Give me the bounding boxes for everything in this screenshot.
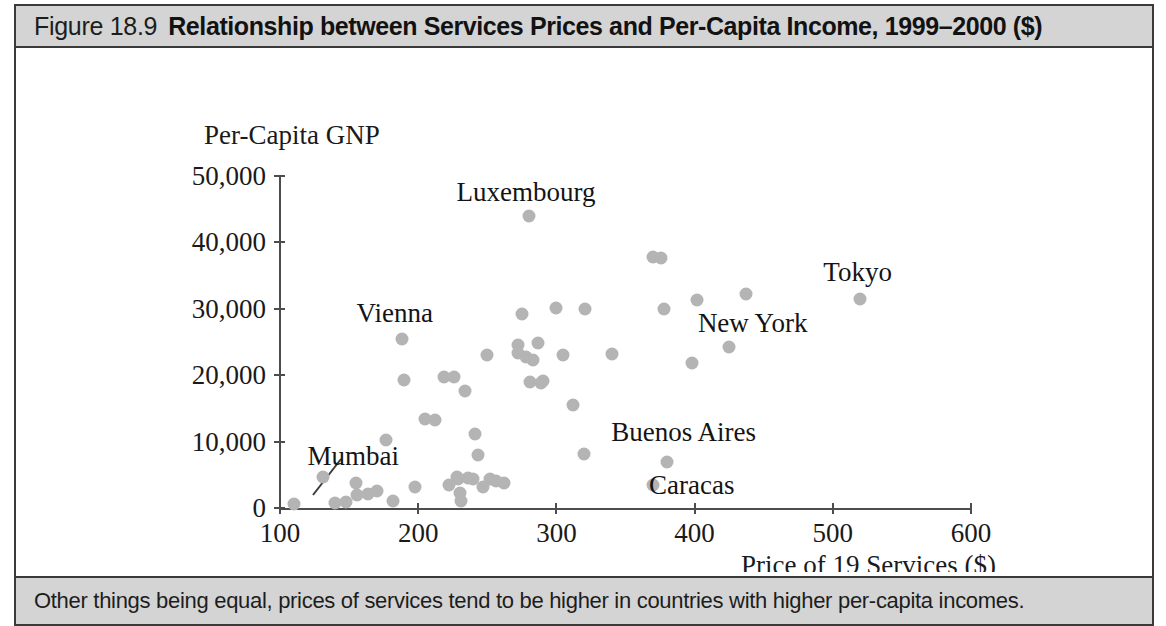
figure-container: Figure 18.9 Relationship between Service… [0, 0, 1166, 626]
data-point [854, 292, 867, 305]
data-point [660, 455, 673, 468]
data-point [471, 448, 484, 461]
figure-title: Relationship between Services Prices and… [168, 12, 1042, 41]
data-point [557, 348, 570, 361]
x-tick-label-400: 400 [674, 518, 715, 549]
y-axis-line [279, 176, 281, 510]
figure-caption: Other things being equal, prices of serv… [34, 588, 1024, 614]
data-point [459, 385, 472, 398]
data-point [536, 375, 549, 388]
data-point [497, 476, 510, 489]
data-point [723, 341, 736, 354]
point-label-buenos-aires: Buenos Aires [611, 417, 756, 448]
y-tick-label-20000: 20,000 [192, 360, 266, 391]
x-axis-line [279, 508, 972, 510]
data-point [566, 399, 579, 412]
data-point [658, 302, 671, 315]
x-tick-label-300: 300 [536, 518, 577, 549]
point-label-tokyo: Tokyo [823, 256, 892, 287]
data-point [579, 302, 592, 315]
data-point [468, 427, 481, 440]
data-point [287, 498, 300, 511]
y-axis-title: Per-Capita GNP [204, 120, 380, 151]
point-label-luxembourg: Luxembourg [456, 176, 595, 207]
data-point [526, 353, 539, 366]
y-tick-label-40000: 40,000 [192, 227, 266, 258]
point-label-vienna: Vienna [357, 297, 433, 328]
data-point [739, 288, 752, 301]
data-point [550, 302, 563, 315]
data-point [316, 471, 329, 484]
data-point [398, 373, 411, 386]
data-point [522, 209, 535, 222]
x-tick-400 [694, 503, 696, 514]
data-point [685, 356, 698, 369]
y-tick-label-10000: 10,000 [192, 426, 266, 457]
point-label-mumbai: Mumbai [307, 440, 399, 471]
x-tick-600 [970, 503, 972, 514]
x-tick-label-200: 200 [398, 518, 439, 549]
y-tick-label-0: 0 [253, 493, 267, 524]
y-tick-50000 [274, 175, 285, 177]
data-point [409, 480, 422, 493]
data-point [655, 251, 668, 264]
x-tick-label-500: 500 [813, 518, 854, 549]
data-point [578, 447, 591, 460]
figure-title-bar: Figure 18.9 Relationship between Service… [14, 4, 1154, 48]
figure-number: Figure 18.9 [34, 12, 157, 41]
data-point [387, 495, 400, 508]
data-point [605, 347, 618, 360]
point-label-new-york: New York [698, 308, 808, 339]
data-point [455, 494, 468, 507]
x-axis-title: Price of 19 Services ($) [741, 550, 996, 572]
figure-caption-band: Other things being equal, prices of serv… [14, 576, 1154, 626]
data-point [532, 336, 545, 349]
data-point [515, 308, 528, 321]
x-tick-500 [832, 503, 834, 514]
x-tick-200 [417, 503, 419, 514]
point-label-caracas: Caracas [649, 469, 734, 500]
y-tick-label-50000: 50,000 [192, 161, 266, 192]
y-tick-40000 [274, 241, 285, 243]
y-tick-20000 [274, 374, 285, 376]
data-point [448, 370, 461, 383]
x-tick-label-600: 600 [951, 518, 992, 549]
scatter-plot: 100200300400500600 010,00020,00030,00040… [16, 48, 1152, 572]
x-tick-300 [555, 503, 557, 514]
data-point [428, 413, 441, 426]
y-tick-label-30000: 30,000 [192, 293, 266, 324]
data-point [395, 332, 408, 345]
y-tick-10000 [274, 441, 285, 443]
data-point [691, 294, 704, 307]
data-point [370, 484, 383, 497]
y-tick-30000 [274, 308, 285, 310]
data-point [481, 348, 494, 361]
y-tick-0 [274, 507, 285, 509]
